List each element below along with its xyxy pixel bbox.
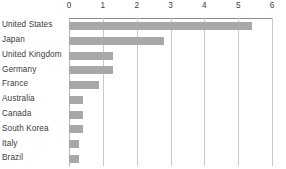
bar: [69, 52, 113, 60]
bar: [69, 155, 79, 163]
x-tick-label: 3: [168, 2, 173, 10]
category-label: Canada: [0, 107, 66, 122]
bar: [69, 37, 164, 45]
bar: [69, 81, 99, 89]
bar: [69, 111, 83, 119]
bar-row: [69, 122, 272, 137]
x-tick-label: 2: [134, 2, 139, 10]
gridline: [272, 18, 273, 166]
bar-series: [69, 19, 272, 166]
bar-row: [69, 34, 272, 49]
bar-row: [69, 151, 272, 166]
bar: [69, 96, 83, 104]
bar-chart-figure: United StatesJapanUnited KingdomGermanyF…: [0, 0, 286, 169]
value-axis-tick-labels: 0123456: [69, 2, 272, 16]
x-tick-label: 5: [236, 2, 241, 10]
bar-row: [69, 107, 272, 122]
bar-row: [69, 78, 272, 93]
category-label: United States: [0, 18, 66, 33]
bar: [69, 125, 83, 133]
category-label: Italy: [0, 136, 66, 151]
bar-row: [69, 48, 272, 63]
category-label: Japan: [0, 33, 66, 48]
bar-row: [69, 63, 272, 78]
category-label: Australia: [0, 92, 66, 107]
bar-row: [69, 19, 272, 34]
x-tick-label: 6: [270, 2, 275, 10]
category-label: Germany: [0, 62, 66, 77]
category-label: France: [0, 77, 66, 92]
plot-area: [69, 18, 272, 166]
bar: [69, 22, 252, 30]
category-label: South Korea: [0, 122, 66, 137]
bar-row: [69, 93, 272, 108]
x-tick-label: 1: [101, 2, 106, 10]
x-tick-label: 0: [67, 2, 72, 10]
bar: [69, 66, 113, 74]
x-tick-label: 4: [202, 2, 207, 10]
category-label: Brazil: [0, 151, 66, 166]
category-label: United Kingdom: [0, 48, 66, 63]
category-axis-labels: United StatesJapanUnited KingdomGermanyF…: [0, 18, 66, 166]
bar-row: [69, 137, 272, 152]
bar: [69, 140, 79, 148]
